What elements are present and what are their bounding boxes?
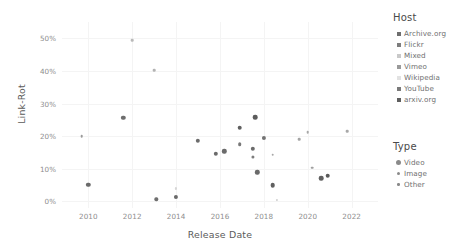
gridline-vertical xyxy=(88,22,89,208)
data-point[interactable] xyxy=(311,166,314,169)
data-point[interactable] xyxy=(131,39,134,42)
legend-swatch-container xyxy=(393,87,404,91)
legend-host: Host Archive.orgFlickrMixedVimeoWikipedi… xyxy=(393,12,446,105)
data-point[interactable] xyxy=(306,131,309,134)
legend-item-label: YouTube xyxy=(404,84,434,93)
data-point[interactable] xyxy=(262,135,266,139)
gridline-horizontal xyxy=(62,104,378,105)
x-tick-label: 2010 xyxy=(79,212,98,221)
legend-host-items: Archive.orgFlickrMixedVimeoWikipediaYouT… xyxy=(393,28,446,105)
data-point[interactable] xyxy=(237,125,242,130)
legend-item-type[interactable]: Video xyxy=(393,157,427,168)
legend-swatch-container xyxy=(393,76,404,80)
gridline-vertical xyxy=(352,22,353,208)
x-tick-label: 2014 xyxy=(167,212,186,221)
legend-item-label: Wikipedia xyxy=(404,73,440,82)
square-swatch-icon xyxy=(397,98,401,102)
legend-item-label: Video xyxy=(404,158,425,167)
square-swatch-icon xyxy=(397,32,401,36)
legend-item-host[interactable]: Wikipedia xyxy=(393,72,446,83)
data-point[interactable] xyxy=(222,149,226,153)
legend-item-label: Other xyxy=(404,180,425,189)
data-point[interactable] xyxy=(276,198,278,200)
x-tick-label: 2018 xyxy=(255,212,274,221)
data-point[interactable] xyxy=(121,115,125,119)
plot-area xyxy=(62,22,378,208)
data-point[interactable] xyxy=(270,183,275,188)
square-swatch-icon xyxy=(397,65,401,69)
legend-item-host[interactable]: Vimeo xyxy=(393,61,446,72)
gridline-horizontal xyxy=(62,201,378,202)
legend-swatch-container xyxy=(393,98,404,102)
legend-type-title: Type xyxy=(393,141,427,152)
data-point[interactable] xyxy=(253,115,258,120)
legend-swatch-container xyxy=(393,32,404,36)
gridline-vertical xyxy=(220,22,221,208)
circle-swatch-icon xyxy=(396,160,401,165)
data-point[interactable] xyxy=(325,173,330,178)
data-point[interactable] xyxy=(238,143,242,147)
data-point[interactable] xyxy=(251,155,254,158)
legend-item-host[interactable]: Flickr xyxy=(393,39,446,50)
data-point[interactable] xyxy=(271,154,274,157)
gridline-horizontal xyxy=(62,136,378,137)
data-point[interactable] xyxy=(86,182,90,186)
legend-host-title: Host xyxy=(393,12,446,23)
data-point[interactable] xyxy=(346,130,349,133)
gridline-vertical xyxy=(132,22,133,208)
x-axis-title: Release Date xyxy=(62,229,378,240)
square-swatch-icon xyxy=(397,54,401,58)
data-point[interactable] xyxy=(155,197,158,200)
legend-item-label: Mixed xyxy=(404,51,426,60)
circle-swatch-icon xyxy=(397,183,399,185)
legend-swatch-container xyxy=(393,183,404,185)
legend-swatch-container xyxy=(393,54,404,58)
square-swatch-icon xyxy=(397,87,401,91)
legend-item-host[interactable]: Archive.org xyxy=(393,28,446,39)
legend-item-type[interactable]: Image xyxy=(393,168,427,179)
data-point[interactable] xyxy=(251,146,255,150)
x-tick-label: 2016 xyxy=(211,212,230,221)
gridline-vertical xyxy=(176,22,177,208)
data-point[interactable] xyxy=(298,138,301,141)
gridline-horizontal xyxy=(62,169,378,170)
legend-item-host[interactable]: Mixed xyxy=(393,50,446,61)
x-tick-label: 2022 xyxy=(342,212,361,221)
scatter-chart: 2010201220142016201820202022 0%10%20%30%… xyxy=(0,0,461,251)
legend-item-label: Image xyxy=(404,169,427,178)
data-point[interactable] xyxy=(80,135,83,138)
legend-type: Type VideoImageOther xyxy=(393,141,427,190)
x-tick-label: 2012 xyxy=(123,212,142,221)
data-point[interactable] xyxy=(319,176,324,181)
gridline-vertical xyxy=(264,22,265,208)
data-point[interactable] xyxy=(153,69,156,72)
legend-swatch-container xyxy=(393,160,404,165)
square-swatch-icon xyxy=(397,76,401,80)
circle-swatch-icon xyxy=(397,172,401,176)
legend-item-label: Archive.org xyxy=(404,29,446,38)
legend-item-label: Flickr xyxy=(404,40,424,49)
legend-swatch-container xyxy=(393,65,404,69)
legend-item-label: Vimeo xyxy=(404,62,427,71)
data-point[interactable] xyxy=(174,194,178,198)
legend-item-type[interactable]: Other xyxy=(393,179,427,190)
gridline-horizontal xyxy=(62,38,378,39)
data-point[interactable] xyxy=(213,151,217,155)
square-swatch-icon xyxy=(397,43,401,47)
y-axis-title: Link-Rot xyxy=(16,84,27,124)
data-point[interactable] xyxy=(196,139,200,143)
legend-swatch-container xyxy=(393,172,404,176)
legend-item-host[interactable]: YouTube xyxy=(393,83,446,94)
legend-item-host[interactable]: arxiv.org xyxy=(393,94,446,105)
gridline-vertical xyxy=(308,22,309,208)
x-tick-label: 2020 xyxy=(298,212,317,221)
legend-item-label: arxiv.org xyxy=(404,95,436,104)
legend-type-items: VideoImageOther xyxy=(393,157,427,190)
data-point[interactable] xyxy=(255,170,259,174)
gridline-horizontal xyxy=(62,71,378,72)
legend-swatch-container xyxy=(393,43,404,47)
